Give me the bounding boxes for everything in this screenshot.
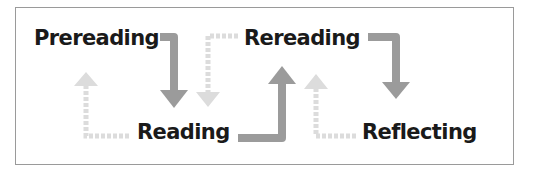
- stage-rereading: Rereading: [244, 28, 360, 49]
- arrow-reflecting-to-rereading-dashed: [304, 74, 356, 136]
- arrow-reading-to-prereading-dashed: [74, 72, 129, 136]
- stage-reflecting: Reflecting: [362, 122, 477, 143]
- arrow-rereading-to-reflecting: [368, 37, 410, 99]
- arrow-reading-to-rereading: [238, 66, 296, 138]
- stage-prereading: Prereading: [34, 28, 159, 49]
- stage-reading: Reading: [137, 122, 230, 143]
- arrow-rereading-to-reading-dashed: [196, 36, 238, 107]
- arrow-prereading-to-reading: [160, 37, 188, 108]
